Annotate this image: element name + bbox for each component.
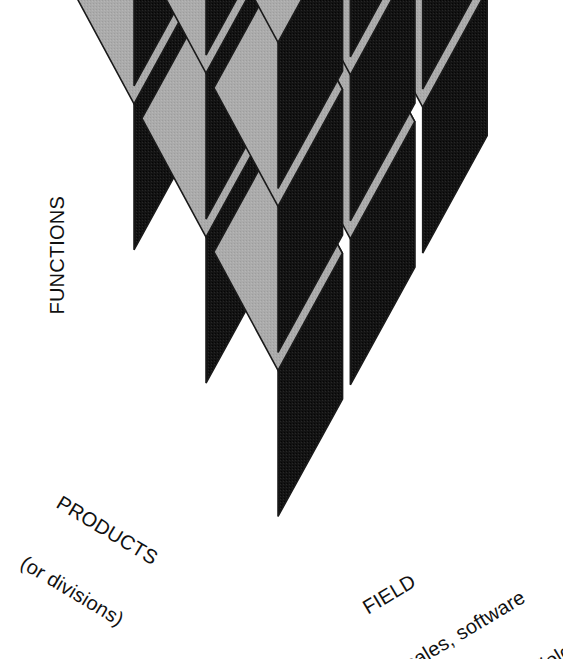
diagram-canvas: FUNCTIONS PRODUCTS (or divisions) FIELD … xyxy=(0,0,563,659)
axis-label-products-line-2: (or divisions) xyxy=(16,551,128,631)
axis-label-functions-text: FUNCTIONS xyxy=(46,196,69,314)
axis-label-functions: FUNCTIONS xyxy=(0,196,116,314)
axis-label-products-line-1: PRODUCTS xyxy=(52,492,164,572)
